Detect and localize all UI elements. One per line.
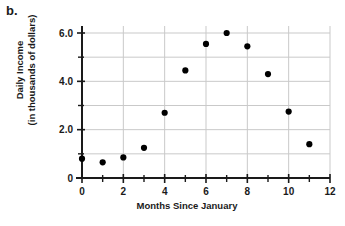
data-point bbox=[100, 159, 106, 165]
data-point bbox=[203, 41, 209, 47]
data-point bbox=[244, 43, 250, 49]
data-point-series bbox=[79, 30, 313, 165]
x-tick-label: 2 bbox=[121, 186, 127, 197]
vertical-gridlines bbox=[123, 26, 330, 178]
data-point bbox=[224, 30, 230, 36]
y-tick-label: 4.0 bbox=[59, 76, 73, 87]
x-tick-label: 12 bbox=[324, 186, 336, 197]
axis-lines bbox=[76, 26, 330, 178]
y-axis-tick-labels: 02.04.06.0 bbox=[59, 28, 73, 184]
y-tick-label: 2.0 bbox=[59, 124, 73, 135]
data-point bbox=[79, 156, 85, 162]
data-point bbox=[162, 110, 168, 116]
plot-canvas: 02.04.06.0 024681012 bbox=[0, 0, 345, 226]
x-tick-label: 0 bbox=[79, 186, 85, 197]
data-point bbox=[182, 67, 188, 73]
y-tick-label: 0 bbox=[67, 173, 73, 184]
data-point bbox=[141, 145, 147, 151]
data-point bbox=[286, 108, 292, 114]
data-point bbox=[265, 71, 271, 77]
data-point bbox=[120, 154, 126, 160]
x-tick-label: 8 bbox=[245, 186, 251, 197]
data-point bbox=[306, 141, 312, 147]
x-tick-label: 6 bbox=[203, 186, 209, 197]
x-tick-label: 10 bbox=[283, 186, 295, 197]
x-axis-tick-labels: 024681012 bbox=[79, 186, 336, 197]
y-tick-label: 6.0 bbox=[59, 28, 73, 39]
x-tick-label: 4 bbox=[162, 186, 168, 197]
scatter-plot-figure: b. Daily Income (in thousands of dollars… bbox=[0, 0, 345, 226]
